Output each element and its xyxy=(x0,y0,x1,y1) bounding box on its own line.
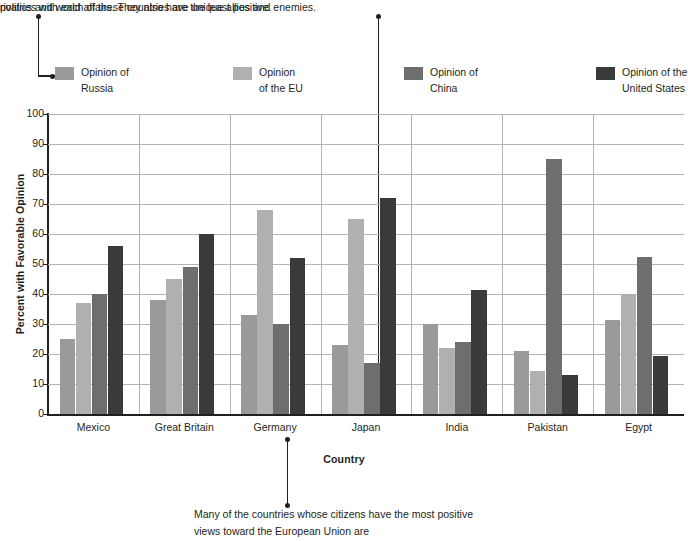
gridline xyxy=(48,234,684,235)
x-group-separator xyxy=(502,114,503,414)
bar[interactable] xyxy=(605,320,621,415)
legend-label-china-line1: Opinion of xyxy=(430,64,478,80)
legend-label-china-line2: China xyxy=(430,80,478,96)
x-group-separator xyxy=(593,114,594,414)
x-group-separator xyxy=(139,114,140,414)
bar[interactable] xyxy=(653,356,669,415)
bar[interactable] xyxy=(257,210,273,414)
gridline xyxy=(48,204,684,205)
x-tick-label: Pakistan xyxy=(502,421,593,433)
legend-swatch-china xyxy=(404,67,423,80)
callout-bottom-line-1: Many of the countries whose citizens hav… xyxy=(194,508,409,520)
y-tick-label: 80 xyxy=(4,167,44,179)
legend-label-china: Opinion of China xyxy=(430,64,478,96)
legend-label-russia: Opinion of Russia xyxy=(81,64,129,96)
chart-legend: Opinion of Russia Opinion of the EU Opin… xyxy=(0,64,688,104)
x-group-separator xyxy=(230,114,231,414)
y-tick-label: 50 xyxy=(4,257,44,269)
y-tick-label: 0 xyxy=(4,407,44,419)
legend-label-eu-line2: of the EU xyxy=(259,80,303,96)
legend-swatch-united-states xyxy=(596,67,615,80)
y-tick-label: 40 xyxy=(4,287,44,299)
legend-label-eu-line1: Opinion xyxy=(259,64,303,80)
y-tick-label: 70 xyxy=(4,197,44,209)
legend-label-us-line1: Opinion of the xyxy=(622,64,687,80)
bar[interactable] xyxy=(439,348,455,414)
bar[interactable] xyxy=(290,258,306,414)
bar[interactable] xyxy=(380,198,396,414)
x-tick-label: Great Britain xyxy=(139,421,230,433)
bar[interactable] xyxy=(348,219,364,414)
bar[interactable] xyxy=(92,294,108,414)
y-tick-label: 20 xyxy=(4,347,44,359)
gridline xyxy=(48,264,684,265)
legend-label-eu: Opinion of the EU xyxy=(259,64,303,96)
bar[interactable] xyxy=(273,324,289,414)
bar[interactable] xyxy=(241,315,257,414)
bar[interactable] xyxy=(76,303,92,414)
bar[interactable] xyxy=(546,159,562,414)
bar[interactable] xyxy=(108,246,124,414)
y-tick-label: 100 xyxy=(4,107,44,119)
gridline xyxy=(48,174,684,175)
x-axis-line xyxy=(47,414,684,416)
bar[interactable] xyxy=(530,371,546,415)
legend-swatch-eu xyxy=(233,67,252,80)
gridline xyxy=(48,114,684,115)
y-tick-label: 10 xyxy=(4,377,44,389)
x-tick-label: Egypt xyxy=(593,421,684,433)
bar[interactable] xyxy=(183,267,199,414)
x-tick-label: Japan xyxy=(321,421,412,433)
bar[interactable] xyxy=(621,294,637,414)
callout-text-bottom: Many of the countries whose citizens hav… xyxy=(194,506,494,540)
x-tick-label: Mexico xyxy=(48,421,139,433)
bar[interactable] xyxy=(199,234,215,414)
x-axis-title: Country xyxy=(0,453,688,465)
bar[interactable] xyxy=(471,290,487,415)
bar[interactable] xyxy=(562,375,578,414)
bar[interactable] xyxy=(637,257,653,415)
x-tick-label: Germany xyxy=(230,421,321,433)
bars-container xyxy=(48,114,684,414)
legend-label-russia-line2: Russia xyxy=(81,80,129,96)
bar[interactable] xyxy=(364,363,380,414)
x-group-separator xyxy=(321,114,322,414)
chart-plot-area xyxy=(48,114,684,414)
y-tick-label: 30 xyxy=(4,317,44,329)
y-tick-label: 60 xyxy=(4,227,44,239)
legend-label-united-states: Opinion of the United States xyxy=(622,64,687,96)
bar[interactable] xyxy=(514,351,530,414)
bar[interactable] xyxy=(60,339,76,414)
legend-label-russia-line1: Opinion of xyxy=(81,64,129,80)
callout-line-germany xyxy=(287,439,288,505)
legend-swatch-russia xyxy=(55,67,74,80)
gridline xyxy=(48,354,684,355)
bar[interactable] xyxy=(332,345,348,414)
bar[interactable] xyxy=(455,342,471,414)
gridline xyxy=(48,324,684,325)
x-group-separator xyxy=(411,114,412,414)
bar[interactable] xyxy=(166,279,182,414)
bar[interactable] xyxy=(423,324,439,414)
legend-label-us-line2: United States xyxy=(622,80,687,96)
gridline xyxy=(48,144,684,145)
x-tick-label: India xyxy=(411,421,502,433)
y-tick-label: 90 xyxy=(4,137,44,149)
gridline xyxy=(48,294,684,295)
bar[interactable] xyxy=(150,300,166,414)
